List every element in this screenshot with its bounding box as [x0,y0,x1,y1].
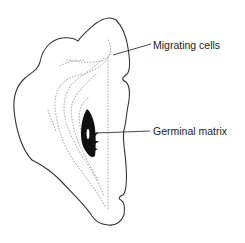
tissue-outline [14,18,130,225]
germinal-matrix-label: Germinal matrix [153,126,227,137]
migrating-cells-label: Migrating cells [153,40,220,51]
brain-section-diagram [0,0,245,243]
